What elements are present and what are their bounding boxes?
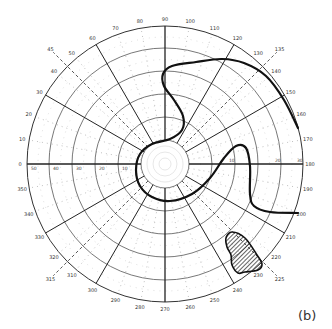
angle-label: 330 [35, 234, 45, 240]
meridian-lines [27, 26, 303, 302]
angle-label: 250 [210, 297, 220, 303]
dotted-radial [35, 172, 142, 211]
angle-label: 120 [233, 35, 243, 41]
angle-label: 210 [286, 234, 296, 240]
angle-label: 150 [286, 89, 296, 95]
dotted-radial [29, 140, 141, 160]
polar-visual-field-chart: 0102030405060708090100110120130140150160… [0, 0, 332, 329]
angle-label: 80 [137, 18, 143, 24]
angle-label: 130 [253, 50, 263, 56]
angle-label: 50 [69, 50, 75, 56]
angle-label: 220 [271, 254, 281, 260]
dotted-radial [35, 117, 142, 156]
dashed-meridian-label: 45 [47, 46, 53, 52]
dotted-radial [76, 58, 149, 145]
dotted-radial [183, 75, 270, 148]
dotted-radial [118, 34, 157, 141]
angle-label: 260 [185, 304, 195, 310]
dashed-meridian-label: 135 [275, 46, 285, 52]
dotted-radial [59, 179, 146, 252]
angle-label: 280 [135, 304, 145, 310]
panel-label: (b) [298, 308, 316, 323]
angle-label: 10 [19, 136, 25, 142]
dotted-radial [173, 34, 212, 141]
ring-label: 10 [122, 166, 128, 171]
dotted-radial [169, 188, 189, 300]
dotted-radial [189, 168, 301, 188]
angle-label: 270 [160, 306, 170, 312]
dotted-radial [141, 28, 161, 140]
ring-label: 40 [53, 166, 59, 171]
dotted-radial [29, 168, 141, 188]
dotted-radial [173, 187, 212, 294]
ring-label: 50 [31, 166, 37, 171]
angle-label: 340 [24, 211, 34, 217]
ring-label: 30 [297, 158, 303, 163]
dashed-meridian-label: 225 [275, 276, 285, 282]
ring-label: 20 [99, 166, 105, 171]
inner-faint-ring [159, 158, 171, 170]
dotted-radial [76, 182, 149, 269]
angle-label: 180 [305, 161, 315, 167]
inner-faint-ring [147, 146, 183, 182]
dotted-radial [188, 117, 295, 156]
dotted-radial [59, 75, 146, 148]
isopter-curve [136, 59, 298, 213]
inner-faint-ring [153, 152, 177, 176]
dashed-meridian-label: 315 [46, 276, 56, 282]
ring-label: 10 [229, 158, 235, 163]
angle-label: 40 [51, 68, 57, 74]
angle-label: 100 [185, 18, 195, 24]
ring-label: 30 [76, 166, 82, 171]
angle-label: 170 [303, 136, 313, 142]
dotted-radial [180, 58, 253, 145]
angle-label: 230 [253, 272, 263, 278]
angle-label: 300 [88, 287, 98, 293]
dotted-radial [169, 28, 189, 140]
angle-label: 90 [162, 16, 168, 22]
angle-label: 290 [111, 297, 121, 303]
dotted-radial [188, 172, 295, 211]
angle-label: 30 [36, 89, 42, 95]
angle-label: 140 [271, 68, 281, 74]
angle-label: 160 [296, 111, 306, 117]
angle-label: 240 [233, 287, 243, 293]
angle-label: 60 [89, 35, 95, 41]
angle-label: 350 [17, 186, 27, 192]
angle-label: 310 [67, 272, 77, 278]
angle-label: 70 [112, 25, 118, 31]
dotted-radial [118, 187, 157, 294]
angle-label: 0 [18, 161, 21, 167]
dotted-radial [141, 188, 161, 300]
scotoma-region [226, 232, 262, 273]
angle-label: 320 [49, 254, 59, 260]
dotted-radial [189, 140, 301, 160]
angle-label: 110 [210, 25, 220, 31]
ring-label: 20 [275, 158, 281, 163]
angle-label: 20 [26, 111, 32, 117]
angle-label: 190 [303, 186, 313, 192]
